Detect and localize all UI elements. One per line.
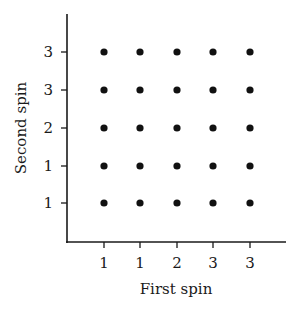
x-ticks xyxy=(104,242,250,248)
data-point xyxy=(100,162,107,169)
data-point xyxy=(136,199,143,206)
data-point xyxy=(173,86,180,93)
data-point xyxy=(246,162,253,169)
data-point xyxy=(136,48,143,55)
data-point xyxy=(100,124,107,131)
x-tick-label: 3 xyxy=(208,254,218,272)
y-tick-label: 1 xyxy=(43,157,53,175)
x-tick-label: 3 xyxy=(245,254,255,272)
data-point xyxy=(173,199,180,206)
data-point xyxy=(246,48,253,55)
x-tick-label: 2 xyxy=(172,254,182,272)
y-tick-label: 3 xyxy=(43,43,53,61)
data-points xyxy=(100,48,253,206)
data-point xyxy=(173,162,180,169)
data-point xyxy=(209,86,216,93)
x-axis-title: First spin xyxy=(140,280,213,298)
data-point xyxy=(100,199,107,206)
data-point xyxy=(246,124,253,131)
x-tick-label: 1 xyxy=(99,254,109,272)
data-point xyxy=(136,86,143,93)
data-point xyxy=(209,162,216,169)
data-point xyxy=(209,124,216,131)
y-tick-label: 2 xyxy=(43,119,53,137)
data-point xyxy=(173,124,180,131)
data-point xyxy=(246,86,253,93)
data-point xyxy=(209,48,216,55)
data-point xyxy=(100,48,107,55)
data-point xyxy=(173,48,180,55)
y-tick-label: 3 xyxy=(43,81,53,99)
x-tick-label: 1 xyxy=(135,254,145,272)
data-point xyxy=(209,199,216,206)
y-tick-label: 1 xyxy=(43,194,53,212)
data-point xyxy=(136,124,143,131)
data-point xyxy=(246,199,253,206)
data-point xyxy=(136,162,143,169)
y-axis-title: Second spin xyxy=(12,81,30,174)
dot-plot: 3 3 2 1 1 1 1 2 3 3 First spin Second sp… xyxy=(0,0,292,319)
y-ticks xyxy=(61,52,67,203)
data-point xyxy=(100,86,107,93)
